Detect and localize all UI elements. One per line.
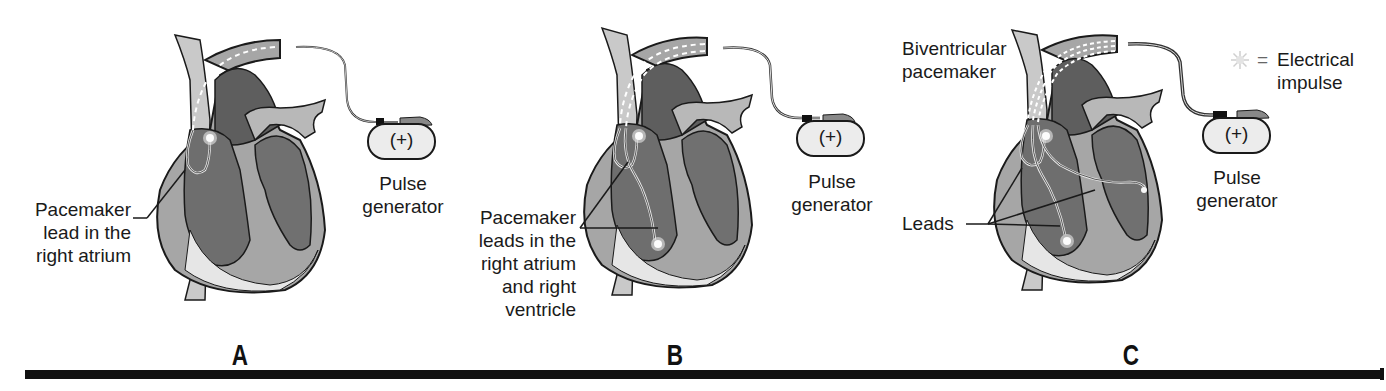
biventricular-title: Biventricular pacemaker (902, 37, 1007, 83)
generator-symbol-b: (+) (797, 126, 864, 148)
lead-label-b: Pacemaker leads in the right atrium and … (455, 206, 576, 321)
panel-letter-b: B (667, 338, 683, 372)
legend-text: Electrical impulse (1277, 48, 1354, 94)
panel-b: (+) Pulse generator Pacemaker leads in t… (440, 0, 900, 391)
legend-equals: = (1257, 48, 1268, 71)
heart-a (157, 35, 325, 300)
electrical-impulse-icon (1230, 50, 1250, 70)
heart-b (584, 28, 752, 295)
generator-label-b: Pulse generator (777, 170, 887, 216)
bottom-divider-end (1380, 368, 1384, 380)
bottom-divider (25, 370, 1381, 379)
panel-a: (+) Pulse generator Pacemaker lead in th… (0, 0, 460, 391)
generator-symbol-c: (+) (1203, 123, 1270, 145)
generator-label-c: Pulse generator (1182, 166, 1292, 212)
lead-label-c: Leads (902, 212, 954, 235)
heart-c (994, 30, 1162, 290)
lead-label-a: Pacemaker lead in the right atrium (10, 198, 131, 267)
generator-symbol-a: (+) (368, 129, 435, 151)
panel-letter-a: A (232, 338, 248, 372)
panel-letter-c: C (1123, 338, 1139, 372)
